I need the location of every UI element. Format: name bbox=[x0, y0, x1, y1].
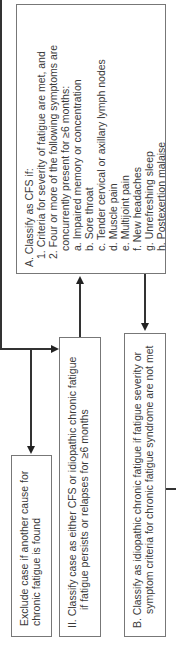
classify-cfs-box: A. Classify as CFS if: 1. Criteria for s… bbox=[16, 4, 166, 274]
symptom-c: c. Tender cervical or axillary lymph nod… bbox=[95, 45, 107, 267]
arrow-down-icon bbox=[141, 323, 149, 331]
criterion-2: 2. Four or more of the following symptom… bbox=[47, 45, 59, 267]
classify-cfs-title: A. Classify as CFS if: bbox=[23, 45, 35, 267]
classify-either-line-1: II. Classify case as either CFS or idiop… bbox=[66, 357, 78, 628]
arrow-right-icon bbox=[51, 345, 59, 353]
criterion-1: 1. Criteria for severity of fatigue are … bbox=[35, 45, 47, 267]
classify-either-box: II. Classify case as either CFS or idiop… bbox=[59, 337, 101, 637]
left-vertical-connector bbox=[0, 0, 2, 349]
criterion-2-cont: concurrently present for ≥6 months: bbox=[59, 45, 71, 267]
classify-idiopathic-text: B. Classify as idiopathic chronic fatigu… bbox=[131, 346, 155, 628]
classify-either-text: II. Classify case as either CFS or idiop… bbox=[66, 357, 90, 628]
symptom-f: f. New headaches bbox=[131, 45, 143, 267]
exclude-case-text: Exclude case if another cause for chroni… bbox=[18, 471, 42, 626]
arrow-down-icon bbox=[27, 446, 35, 454]
arrow-up-icon bbox=[76, 276, 84, 284]
classify-either-line-2: if fatigue persists or relapses for ≥6 m… bbox=[78, 357, 90, 628]
exclude-line-2: chronic fatigue is found bbox=[30, 471, 42, 626]
horizontal-connector-to-ii bbox=[0, 348, 52, 350]
exclude-case-box: Exclude case if another cause for chroni… bbox=[11, 455, 52, 637]
symptom-d: d. Muscle pain bbox=[107, 45, 119, 267]
classify-idiopathic-box: B. Classify as idiopathic chronic fatigu… bbox=[124, 333, 166, 637]
connector-to-exclude bbox=[30, 348, 32, 448]
symptom-b: b. Sore throat bbox=[83, 45, 95, 267]
connector-ii-to-a bbox=[79, 284, 81, 337]
classify-idiopathic-line-2: symptom criteria for chronic fatigue syn… bbox=[143, 346, 155, 628]
connector-a-to-b bbox=[144, 274, 146, 324]
symptom-e: e. Multijoint pain bbox=[119, 45, 131, 267]
classify-idiopathic-line-1: B. Classify as idiopathic chronic fatigu… bbox=[131, 346, 143, 628]
exclude-line-1: Exclude case if another cause for bbox=[18, 471, 30, 626]
connector-b-right bbox=[166, 488, 176, 490]
classify-cfs-text: A. Classify as CFS if: 1. Criteria for s… bbox=[23, 45, 167, 267]
symptom-h: h. Postexertion malaise bbox=[155, 45, 167, 267]
symptom-a: a. Impaired memory or concentration bbox=[71, 45, 83, 267]
symptom-g: g. Unrefreshing sleep bbox=[143, 45, 155, 267]
